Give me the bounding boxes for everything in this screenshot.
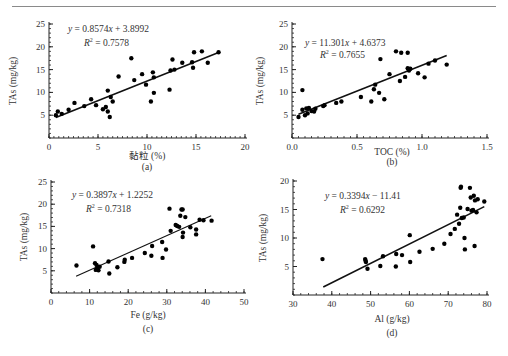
data-point	[475, 197, 479, 201]
data-point	[296, 115, 300, 119]
data-point	[167, 206, 171, 210]
data-point	[172, 67, 176, 71]
data-point	[123, 258, 127, 262]
data-point	[334, 101, 338, 105]
data-point	[188, 225, 192, 229]
data-point	[180, 235, 184, 239]
data-point	[164, 247, 168, 251]
data-point	[369, 99, 373, 103]
data-point	[216, 50, 220, 54]
data-point	[197, 218, 201, 222]
chart-panel-d: 3040506070805101520Al (g/kg)TAs (mg/kg)(…	[258, 176, 492, 339]
r-squared: R2 = 0.7578	[83, 37, 129, 48]
data-point	[178, 214, 182, 218]
regression-equation: y = 0.8574x + 3.8992	[67, 24, 149, 34]
data-point	[152, 75, 156, 79]
data-point	[399, 51, 403, 55]
data-point	[60, 112, 64, 116]
x-tick-label: 20	[124, 297, 134, 307]
data-point	[422, 75, 426, 79]
data-point	[177, 225, 181, 229]
data-point	[381, 254, 385, 258]
y-tick-label: 20	[280, 176, 290, 186]
y-tick-label: 15	[280, 205, 290, 215]
data-point	[194, 227, 198, 231]
y-tick-label: 10	[36, 87, 46, 97]
data-point	[300, 108, 304, 112]
data-point	[170, 57, 174, 61]
data-point	[56, 109, 60, 113]
x-tick-label: 0	[49, 297, 54, 307]
data-point	[382, 97, 386, 101]
data-point	[394, 264, 398, 268]
x-tick-label: 40	[201, 297, 211, 307]
regression-equation: y = 0.3897x + 1.2252	[71, 190, 153, 200]
x-tick-label: 40	[327, 299, 337, 309]
data-point	[144, 82, 148, 86]
y-tick-label: 25	[38, 177, 48, 187]
data-point	[305, 111, 309, 115]
y-axis-title: TAs (mg/kg)	[258, 214, 269, 263]
data-point	[300, 88, 304, 92]
data-point	[108, 115, 112, 119]
data-point	[417, 249, 421, 253]
data-point	[406, 51, 410, 55]
y-tick-label: 25	[279, 19, 289, 29]
data-point	[168, 229, 172, 233]
data-point	[180, 61, 184, 65]
data-point	[378, 57, 382, 61]
panel-label: (a)	[142, 162, 153, 173]
figure-canvas: 05101520510152025黏粒 (%)TAs (mg/kg)(a)y =…	[0, 0, 508, 356]
x-tick-label: 0	[47, 142, 52, 152]
data-point	[151, 70, 155, 74]
data-point	[82, 104, 86, 108]
data-point	[463, 247, 467, 251]
data-point	[426, 61, 430, 65]
x-tick-label: 1.0	[416, 142, 428, 152]
data-point	[167, 87, 171, 91]
y-tick-label: 5	[284, 110, 289, 120]
data-point	[152, 91, 156, 95]
data-point	[459, 185, 463, 189]
x-tick-label: 0.5	[351, 142, 363, 152]
regression-equation: y = 0.3394x − 11.41	[324, 191, 401, 201]
data-point	[140, 72, 144, 76]
data-point	[116, 74, 120, 78]
data-point	[313, 107, 317, 111]
data-point	[206, 61, 210, 65]
x-tick-label: 70	[444, 299, 454, 309]
data-point	[398, 79, 402, 83]
x-tick-label: 30	[162, 297, 172, 307]
data-point	[339, 99, 343, 103]
x-axis-title: 黏粒 (%)	[129, 150, 166, 162]
data-point	[132, 78, 136, 82]
y-tick-label: 5	[41, 110, 46, 120]
x-tick-label: 50	[240, 297, 250, 307]
data-point	[394, 49, 398, 53]
data-point	[377, 91, 381, 95]
regression-equation: y = 11.301x + 4.6373	[304, 38, 386, 48]
x-tick-label: 15	[192, 142, 202, 152]
data-point	[104, 105, 108, 109]
r-squared: R2 = 0.7655	[319, 49, 365, 60]
data-point	[115, 265, 119, 269]
data-point	[400, 253, 404, 257]
y-tick-label: 5	[285, 262, 290, 272]
data-point	[89, 97, 93, 101]
y-tick-label: 10	[280, 233, 290, 243]
data-point	[109, 95, 113, 99]
y-tick-label: 15	[279, 65, 289, 75]
y-tick-label: 25	[36, 19, 46, 29]
y-axis-title: TAs (mg/kg)	[255, 57, 266, 106]
data-point	[448, 232, 452, 236]
x-tick-label: 1.5	[481, 142, 493, 152]
data-point	[160, 256, 164, 260]
y-tick-label: 15	[38, 221, 48, 231]
chart-panel-b: 0.00.51.01.5510152025TOC (%)TAs (mg/kg)(…	[255, 19, 493, 168]
x-axis-title: Al (g/kg)	[374, 314, 409, 325]
y-tick-label: 5	[43, 266, 48, 276]
data-point	[180, 207, 184, 211]
data-point	[106, 109, 110, 113]
data-point	[433, 58, 437, 62]
data-point	[149, 99, 153, 103]
